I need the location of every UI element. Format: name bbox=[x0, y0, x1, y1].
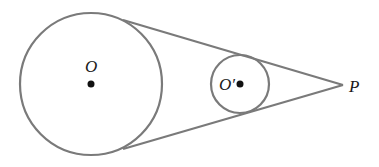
label-P: P bbox=[348, 77, 359, 96]
label-O-prime: O′ bbox=[219, 75, 235, 94]
label-O: O bbox=[85, 57, 97, 76]
tangent-circles-diagram: O O′ P bbox=[0, 0, 379, 167]
center-point-O-prime bbox=[237, 81, 244, 88]
center-point-O bbox=[88, 81, 95, 88]
lower-tangent-line bbox=[123, 85, 343, 149]
